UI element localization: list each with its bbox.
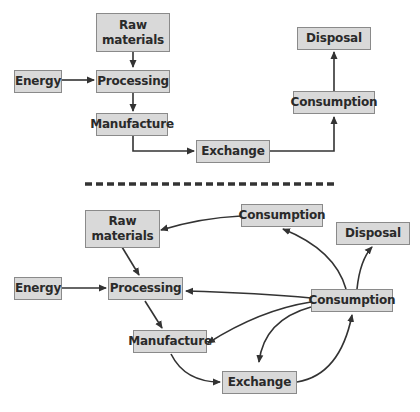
node-energy-top: Energy: [14, 70, 62, 93]
node-exchange-top: Exchange: [196, 140, 270, 163]
node-energy-bottom: Energy: [14, 277, 62, 300]
node-exchange-bottom: Exchange: [222, 371, 297, 394]
node-processing-bottom: Processing: [108, 277, 183, 300]
node-consumption-main-bottom: Consumption: [311, 289, 393, 312]
node-disposal-bottom: Disposal: [336, 222, 410, 245]
diagram-edges: [0, 0, 420, 412]
node-manufacture-top: Manufacture: [96, 113, 168, 136]
node-processing-top: Processing: [96, 70, 170, 93]
node-raw-materials-bottom: Raw materials: [85, 210, 160, 248]
node-consumption-top: Consumption: [293, 91, 375, 114]
node-manufacture-bottom: Manufacture: [133, 330, 207, 353]
node-raw-materials-top: Raw materials: [96, 13, 170, 52]
node-consumption-upper-bottom: Consumption: [241, 204, 323, 227]
node-disposal-top: Disposal: [297, 27, 371, 50]
